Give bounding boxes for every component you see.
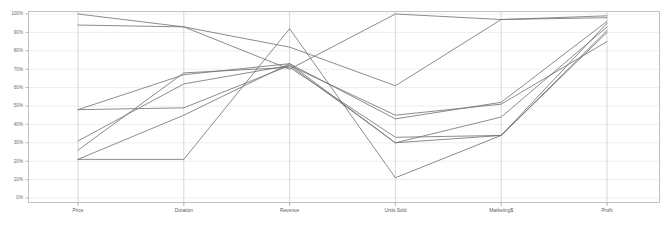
axis-label-revenue: Revenue xyxy=(280,208,299,214)
series-line-7 xyxy=(78,32,607,159)
ytick-label-50%: 50% xyxy=(0,103,23,108)
ytick-label-0%: 0% xyxy=(0,195,23,200)
ytick-label-80%: 80% xyxy=(0,48,23,53)
plot-frame xyxy=(29,12,660,203)
ytick-label-90%: 90% xyxy=(0,30,23,35)
axis-label-marketing: Marketing$ xyxy=(489,208,513,214)
axis-label-duration: Duration xyxy=(175,208,193,214)
ytick-label-30%: 30% xyxy=(0,140,23,145)
series-polylines-group xyxy=(78,14,607,178)
ytick-label-60%: 60% xyxy=(0,85,23,90)
axis-label-units-sold: Units Sold xyxy=(384,208,406,214)
series-line-5 xyxy=(78,27,607,143)
axis-label-profit: Profit xyxy=(601,208,612,214)
ytick-label-10%: 10% xyxy=(0,177,23,182)
ytick-label-100%: 100% xyxy=(0,11,23,16)
series-line-1 xyxy=(78,14,607,86)
axis-label-price: Price xyxy=(73,208,84,214)
ytick-label-70%: 70% xyxy=(0,67,23,72)
series-line-8 xyxy=(78,23,607,178)
ytick-label-20%: 20% xyxy=(0,159,23,164)
chart-canvas xyxy=(0,0,668,232)
ytick-label-40%: 40% xyxy=(0,122,23,127)
tick-marks-group xyxy=(26,14,608,206)
series-line-2 xyxy=(78,14,607,69)
parallel-coordinates-chart: 0%10%20%30%40%50%60%70%80%90%100% PriceD… xyxy=(0,0,668,232)
plot-border xyxy=(29,12,660,203)
